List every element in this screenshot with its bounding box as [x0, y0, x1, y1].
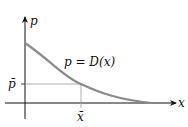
- y-axis-label: p: [30, 14, 38, 28]
- demand-curve-diagram: p x p = D(x) p̄ x̄: [0, 0, 188, 127]
- demand-curve: [25, 43, 152, 103]
- curve-label: p = D(x): [64, 55, 115, 69]
- x-bar-label: x̄: [77, 110, 84, 124]
- x-axis-label: x: [178, 96, 185, 110]
- p-bar-label: p̄: [8, 77, 16, 91]
